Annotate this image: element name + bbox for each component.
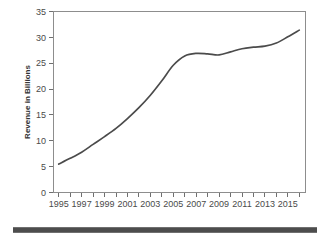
revenue-line-chart: 05101520253035 1995199719992001200320052… [0,0,330,238]
footer-rule [13,227,317,233]
y-tick-label: 0 [41,188,46,198]
x-tick-label: 2011 [232,199,251,209]
chart-figure: 05101520253035 1995199719992001200320052… [0,0,330,238]
y-tick-label: 15 [36,110,46,120]
y-tick-label: 25 [36,58,46,68]
x-tick-label: 1995 [49,199,69,209]
x-tick-label: 2013 [255,199,275,209]
x-tick-label: 2003 [140,199,160,209]
y-axis-title: Revenue in Billions [23,65,32,139]
x-tick-label: 2015 [278,199,298,209]
x-tick-label: 2007 [186,199,206,209]
y-tick-label: 35 [36,7,46,17]
y-tick-label: 30 [36,33,46,43]
y-tick-label: 20 [36,84,46,94]
y-axis-title-text: Revenue in Billions [23,65,32,139]
x-tick-label: 2005 [163,199,183,209]
y-tick-label: 5 [41,162,46,172]
x-axis-tick-labels: 1995199719992001200320052007200920112013… [49,199,298,209]
x-tick-label: 1997 [72,199,92,209]
x-tick-label: 2001 [117,199,137,209]
y-tick-label: 10 [36,136,46,146]
x-tick-label: 2009 [209,199,229,209]
x-tick-label: 1999 [95,199,115,209]
